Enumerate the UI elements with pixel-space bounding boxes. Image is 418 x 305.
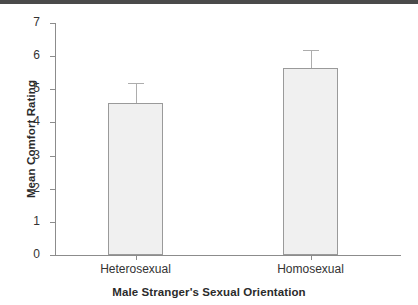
error-bar-stem [136,83,137,103]
y-axis-tick: 6 [0,56,50,57]
y-axis-tick-mark [50,23,55,24]
x-axis-tick-label: Heterosexual [66,262,206,276]
y-axis-tick: 0 [0,255,50,256]
y-axis-tick-mark [50,122,55,123]
y-axis-tick-mark [50,156,55,157]
y-axis-tick: 7 [0,23,50,24]
y-axis-tick-mark [50,89,55,90]
bar-heterosexual [108,103,163,255]
x-axis-line [55,255,401,256]
y-axis-tick-label: 5 [0,82,40,94]
y-axis-tick-mark [50,222,55,223]
y-axis-tick-label: 3 [0,149,40,161]
y-axis-tick-label: 6 [0,49,40,61]
y-axis-tick-mark [50,56,55,57]
x-axis-tick-label: Homosexual [241,262,381,276]
x-axis-tick-mark [311,256,312,260]
y-axis-tick: 1 [0,222,50,223]
y-axis-tick-mark [50,189,55,190]
bar-homosexual [283,68,338,255]
x-axis-title: Male Stranger's Sexual Orientation [0,286,418,298]
y-axis-tick-label: 0 [0,248,40,260]
error-bar-cap [128,83,144,84]
y-axis-tick-mark [50,255,55,256]
y-axis-line [55,23,56,256]
y-axis-tick-label: 7 [0,16,40,28]
y-axis-tick: 2 [0,189,50,190]
error-bar-stem [311,50,312,68]
y-axis-tick: 4 [0,122,50,123]
error-bar-cap [303,50,319,51]
y-axis-tick-label: 4 [0,115,40,127]
y-axis-tick: 3 [0,156,50,157]
bar-chart-figure: Mean Comfort Rating 01234567 Heterosexua… [0,0,418,305]
x-axis-tick-mark [136,256,137,260]
y-axis-tick-label: 2 [0,182,40,194]
y-axis-tick: 5 [0,89,50,90]
y-axis-tick-label: 1 [0,215,40,227]
